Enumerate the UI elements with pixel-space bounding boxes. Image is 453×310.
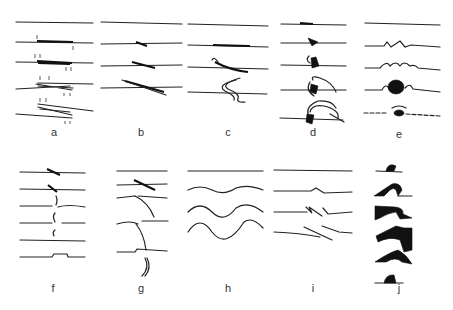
panel-label-d: d [303,126,323,138]
panel-d [280,23,346,124]
panel-label-h: h [218,282,238,294]
panel-c [188,24,268,102]
diagram-canvas [0,0,453,310]
panel-h [188,171,263,239]
panel-a [16,22,93,124]
panel-i [274,170,352,240]
panel-label-i: i [303,282,323,294]
panel-label-c: c [218,126,238,138]
panel-e [364,23,440,116]
panel-label-g: g [131,282,151,294]
panel-label-b: b [131,126,151,138]
panel-label-a: a [44,126,64,138]
panel-j [374,165,412,283]
panel-label-f: f [43,282,63,294]
panel-label-j: j [389,282,409,294]
panel-label-e: e [389,128,409,140]
panel-f [20,169,85,257]
panel-b [101,22,182,95]
panel-g [117,171,168,276]
